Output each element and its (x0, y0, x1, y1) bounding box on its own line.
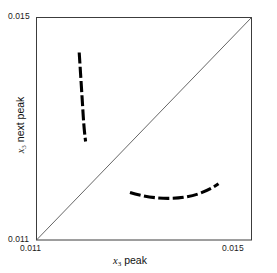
return-map-figure: 0.015 0.011 0.011 0.015 x3 peak x3 next … (0, 0, 277, 273)
y-axis-title-text: next peak (14, 97, 26, 145)
y-axis-title-subscript: 3 (20, 145, 28, 149)
x-axis-tick-label-min: 0.011 (20, 243, 41, 253)
x-axis-tick-label-max: 0.015 (222, 243, 244, 253)
y-axis-title: x3 next peak (14, 82, 28, 168)
x-axis-title-text: peak (121, 254, 147, 266)
x-axis-title: x3 peak (113, 254, 147, 268)
y-axis-title-variable: x (15, 149, 26, 154)
y-axis-tick-label-max: 0.015 (8, 11, 30, 21)
figure-background (0, 0, 277, 273)
plot-canvas (0, 0, 277, 273)
